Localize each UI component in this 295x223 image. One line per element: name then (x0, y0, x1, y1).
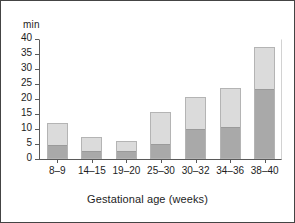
x-axis-tick-label: 19–20 (109, 165, 144, 176)
bar-series-group (40, 39, 282, 159)
y-axis-tick-mark (35, 144, 39, 145)
bar-lower-segment (186, 129, 205, 158)
y-axis-tick-label: 15 (21, 107, 32, 118)
y-axis-tick-mark (35, 39, 39, 40)
bar-lower-segment (255, 89, 274, 158)
x-axis-tick-mark (230, 160, 231, 163)
y-axis-tick-label: 25 (21, 77, 32, 88)
x-axis-tick-label: 34–36 (213, 165, 248, 176)
bar-lower-segment (221, 127, 240, 158)
stacked-bar[interactable] (220, 88, 241, 159)
y-axis-tick-label: 5 (26, 137, 32, 148)
stacked-bar[interactable] (254, 47, 275, 160)
x-axis-tick-label: 14–15 (75, 165, 110, 176)
x-axis-tick-mark (92, 160, 93, 163)
x-axis-tick-mark (57, 160, 58, 163)
y-axis-tick-label: 0 (26, 152, 32, 163)
y-axis-tick-mark (35, 129, 39, 130)
y-axis-tick-mark (35, 99, 39, 100)
stacked-bar[interactable] (185, 97, 206, 159)
y-axis-tick-mark (35, 54, 39, 55)
x-axis-tick-mark (161, 160, 162, 163)
y-axis-tick-label: 20 (21, 92, 32, 103)
y-axis-tick-mark (35, 69, 39, 70)
x-axis-tick-label: 25–30 (144, 165, 179, 176)
stacked-bar[interactable] (81, 137, 102, 159)
y-axis-tick-label: 30 (21, 62, 32, 73)
bar-lower-segment (151, 144, 170, 158)
bar-lower-segment (117, 151, 136, 158)
y-axis-tick-mark (35, 114, 39, 115)
bar-lower-segment (48, 145, 67, 159)
x-axis-title: Gestational age (weeks) (1, 193, 294, 205)
chart-figure: min 0510152025303540 8–914–1519–2025–303… (0, 0, 295, 223)
x-axis-tick-mark (265, 160, 266, 163)
y-axis-unit-label: min (23, 19, 40, 30)
y-axis-tick-label: 40 (21, 32, 32, 43)
x-axis: 8–914–1519–2025–3030–3234–3638–40 (40, 160, 282, 190)
x-axis-tick-label: 30–32 (178, 165, 213, 176)
stacked-bar[interactable] (150, 112, 171, 159)
y-axis-tick-mark (35, 159, 39, 160)
y-axis-tick-mark (35, 84, 39, 85)
y-axis-tick-label: 10 (21, 122, 32, 133)
stacked-bar[interactable] (116, 141, 137, 159)
x-axis-tick-mark (126, 160, 127, 163)
stacked-bar[interactable] (47, 123, 68, 159)
x-axis-tick-mark (196, 160, 197, 163)
bar-lower-segment (82, 151, 101, 159)
x-axis-tick-label: 8–9 (40, 165, 75, 176)
x-axis-tick-label: 38–40 (247, 165, 282, 176)
y-axis-tick-label: 35 (21, 47, 32, 58)
